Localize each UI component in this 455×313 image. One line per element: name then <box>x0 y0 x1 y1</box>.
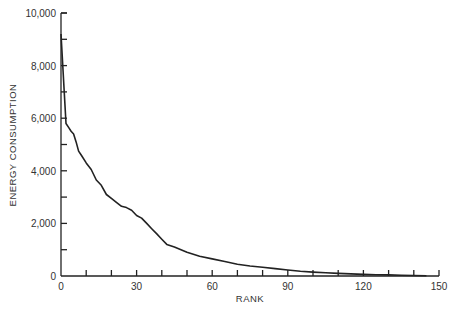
y-tick-label: 0 <box>50 271 56 282</box>
energy-consumption-line <box>61 34 426 276</box>
ticks <box>61 13 439 276</box>
x-tick-label: 150 <box>431 281 448 292</box>
x-tick-label: 90 <box>282 281 294 292</box>
x-tick-label: 30 <box>131 281 143 292</box>
x-axis-title: RANK <box>236 293 265 304</box>
y-tick-label: 10,000 <box>25 8 56 19</box>
energy-consumption-chart: 02,0004,0006,0008,00010,0000306090120150… <box>0 0 455 313</box>
y-tick-label: 2,000 <box>31 218 56 229</box>
y-tick-label: 8,000 <box>31 61 56 72</box>
y-tick-label: 4,000 <box>31 166 56 177</box>
x-tick-label: 60 <box>207 281 219 292</box>
y-tick-label: 6,000 <box>31 113 56 124</box>
x-tick-label: 120 <box>355 281 372 292</box>
tick-labels: 02,0004,0006,0008,00010,0000306090120150 <box>25 8 447 292</box>
axes <box>61 13 439 276</box>
x-tick-label: 0 <box>58 281 64 292</box>
y-axis-title: ENERGY CONSUMPTION <box>7 84 18 207</box>
